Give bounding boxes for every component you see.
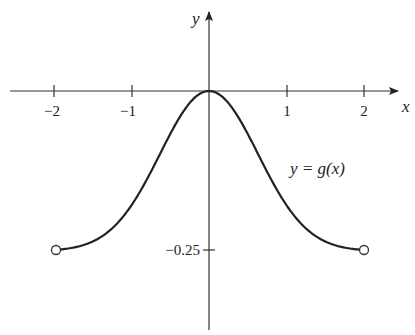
y-axis-label: y xyxy=(190,9,200,28)
x-tick-label-neg2: −2 xyxy=(44,103,60,119)
curve-label: y = g(x) xyxy=(288,159,345,178)
x-tick-label-neg1: −1 xyxy=(120,103,136,119)
x-tick-label-2: 2 xyxy=(360,103,368,119)
open-endpoint-right xyxy=(360,246,369,255)
y-tick-label: −0.25 xyxy=(165,242,200,258)
x-axis-label: x xyxy=(401,97,410,116)
open-endpoint-left xyxy=(52,246,61,255)
function-graph: −2 −1 1 2 −0.25 x y y = g(x) xyxy=(0,0,415,335)
x-tick-label-1: 1 xyxy=(283,103,291,119)
